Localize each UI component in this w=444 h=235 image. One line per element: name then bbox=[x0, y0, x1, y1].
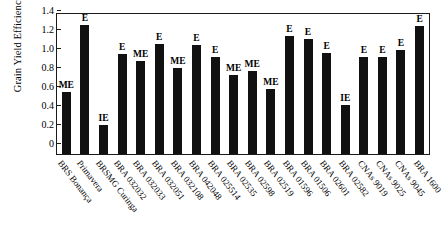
y-axis-tick: 1.2 bbox=[42, 24, 58, 35]
x-tick-slot: CNAs 9045 bbox=[393, 157, 412, 235]
bar-group: E bbox=[113, 14, 132, 154]
bar-annotation: ME bbox=[263, 78, 278, 88]
bar-annotation: E bbox=[305, 28, 311, 38]
bar-annotation: IE bbox=[340, 94, 350, 104]
y-axis-tick-label: 0 bbox=[49, 138, 57, 148]
x-tick-slot: CNAs 9025 bbox=[374, 157, 393, 235]
x-tick-slot: BRA 032108 bbox=[168, 157, 187, 235]
bar-annotation: E bbox=[193, 34, 199, 44]
bar-group: ME bbox=[243, 14, 262, 154]
bar bbox=[99, 125, 108, 154]
y-axis-tick-label: 0.4 bbox=[42, 100, 58, 110]
y-axis-tick: 0.8 bbox=[42, 62, 58, 73]
bar bbox=[304, 39, 313, 154]
bar bbox=[211, 57, 220, 154]
bar-annotation: E bbox=[212, 46, 218, 56]
bar bbox=[62, 92, 71, 154]
bar-group: ME bbox=[262, 14, 281, 154]
y-axis-tick: 0.6 bbox=[42, 81, 58, 92]
bar-group: E bbox=[355, 14, 374, 154]
bar-group: E bbox=[317, 14, 336, 154]
bar-annotation: IE bbox=[98, 114, 108, 124]
x-tick-slot: BRA 02582 bbox=[337, 157, 356, 235]
bar-annotation: ME bbox=[59, 81, 74, 91]
bar bbox=[80, 25, 89, 154]
bar-annotation: ME bbox=[170, 57, 185, 67]
bar-annotation: E bbox=[398, 39, 404, 49]
x-tick-slot: BRS Bonança bbox=[56, 157, 75, 235]
bar-group: ME bbox=[224, 14, 243, 154]
bar-group: E bbox=[299, 14, 318, 154]
y-axis-tick-label: 0.8 bbox=[42, 62, 58, 72]
bar-series: MEEIEEMEEMEEEMEMEMEEEEIEEEEE bbox=[57, 14, 429, 154]
bar-group: E bbox=[76, 14, 95, 154]
bar-annotation: E bbox=[379, 46, 385, 56]
x-axis-tick-labels: BRS BonançaPrimaveraBRSMG CuringaBRA 032… bbox=[56, 157, 430, 235]
x-tick-slot: CNAs 9019 bbox=[355, 157, 374, 235]
bar-group: E bbox=[280, 14, 299, 154]
y-axis-title: Grain Yield Efficiency Index bbox=[12, 0, 28, 104]
bar-annotation: E bbox=[156, 33, 162, 43]
bar bbox=[322, 53, 331, 154]
bar bbox=[155, 44, 164, 154]
bar-group: E bbox=[373, 14, 392, 154]
y-axis-tick-label: 1.0 bbox=[42, 43, 58, 53]
x-tick-slot: BRA 02601 bbox=[318, 157, 337, 235]
bar-annotation: ME bbox=[245, 60, 260, 70]
bar-group: IE bbox=[94, 14, 113, 154]
bar-annotation: E bbox=[119, 43, 125, 53]
x-tick-slot: BRA 02519 bbox=[262, 157, 281, 235]
bar-annotation: E bbox=[286, 25, 292, 35]
bar bbox=[396, 50, 405, 154]
y-axis-tick: 1.4 bbox=[42, 5, 58, 16]
y-axis-tick-label: 0.2 bbox=[42, 119, 58, 129]
x-tick-slot: BRA 042048 bbox=[187, 157, 206, 235]
x-tick-slot: Primavera bbox=[75, 157, 94, 235]
bar bbox=[229, 75, 238, 154]
bar bbox=[192, 45, 201, 154]
bar-annotation: ME bbox=[133, 50, 148, 60]
y-axis-tick-mark bbox=[57, 10, 61, 11]
y-axis-tick-label: 1.4 bbox=[42, 5, 58, 15]
bar-group: E bbox=[150, 14, 169, 154]
x-tick-slot: BRSMG Curinga bbox=[93, 157, 112, 235]
y-axis-tick: 0.2 bbox=[42, 119, 58, 130]
bar-group: ME bbox=[131, 14, 150, 154]
x-axis-tick-label: BRA 1600 bbox=[412, 159, 443, 195]
bar-annotation: E bbox=[361, 46, 367, 56]
bar-annotation: E bbox=[323, 42, 329, 52]
x-tick-slot: BRA 1600 bbox=[411, 157, 430, 235]
bar bbox=[173, 68, 182, 154]
x-tick-slot: BRA 032051 bbox=[150, 157, 169, 235]
bar bbox=[341, 105, 350, 154]
bar bbox=[285, 36, 294, 154]
bar-annotation: E bbox=[82, 14, 88, 24]
x-tick-slot: BRA 01596 bbox=[280, 157, 299, 235]
bar-group: ME bbox=[57, 14, 76, 154]
bar bbox=[415, 26, 424, 154]
bar-group: E bbox=[187, 14, 206, 154]
x-tick-slot: BRA 032032 bbox=[112, 157, 131, 235]
bar-group: E bbox=[392, 14, 411, 154]
y-axis-tick-label: 1.2 bbox=[42, 24, 58, 34]
bar bbox=[248, 71, 257, 154]
bar bbox=[378, 57, 387, 155]
y-axis-tick: 0.4 bbox=[42, 100, 58, 111]
x-tick-slot: BRA 025514 bbox=[206, 157, 225, 235]
bar-chart-figure: Grain Yield Efficiency Index 00.20.40.60… bbox=[0, 0, 444, 235]
x-tick-slot: BRA 02598 bbox=[243, 157, 262, 235]
x-tick-slot: BRA 01506 bbox=[299, 157, 318, 235]
bar bbox=[359, 57, 368, 154]
y-axis-tick: 1.0 bbox=[42, 43, 58, 54]
x-tick-slot: BRA 032033 bbox=[131, 157, 150, 235]
bar-annotation: ME bbox=[226, 64, 241, 74]
bar-annotation: E bbox=[416, 15, 422, 25]
y-axis-tick: 0 bbox=[49, 138, 57, 149]
x-tick-slot: BRA 02535 bbox=[224, 157, 243, 235]
bar bbox=[136, 61, 145, 154]
bar-group: IE bbox=[336, 14, 355, 154]
bar bbox=[266, 89, 275, 154]
plot-area: 00.20.40.60.81.01.21.4 MEEIEEMEEMEEEMEME… bbox=[56, 13, 430, 155]
y-axis-tick-label: 0.6 bbox=[42, 81, 58, 91]
bar-group: ME bbox=[169, 14, 188, 154]
